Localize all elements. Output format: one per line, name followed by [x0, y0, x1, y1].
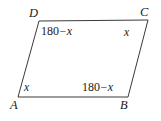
- vertex-label-b: B: [120, 99, 128, 112]
- angle-label-d-variable: x: [67, 24, 72, 38]
- angle-label-c: x: [124, 27, 129, 39]
- vertex-label-c: C: [140, 6, 148, 19]
- angle-label-b-variable: x: [108, 80, 113, 94]
- angle-label-d-operator: −: [59, 24, 67, 38]
- angle-label-b-operator: −: [100, 80, 108, 94]
- angle-label-d-number: 180: [41, 24, 59, 38]
- angle-label-b: 180−x: [82, 81, 113, 93]
- angle-label-d: 180−x: [41, 25, 72, 37]
- parallelogram-shape: [0, 0, 161, 121]
- parallelogram-figure: D C A B 180−x x x 180−x: [0, 0, 161, 121]
- vertex-label-a: A: [10, 99, 18, 112]
- angle-label-a: x: [24, 82, 29, 94]
- angle-label-b-number: 180: [82, 80, 100, 94]
- vertex-label-d: D: [29, 7, 38, 20]
